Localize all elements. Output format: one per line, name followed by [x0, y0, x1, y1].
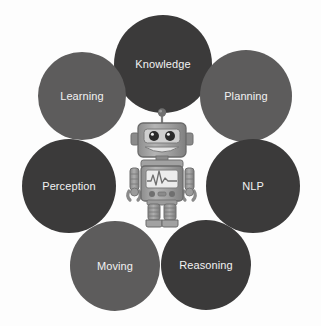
node-knowledge[interactable]: Knowledge [114, 15, 212, 113]
node-label-perception: Perception [42, 180, 96, 192]
node-moving[interactable]: Moving [70, 221, 160, 311]
node-label-moving: Moving [97, 260, 133, 272]
robot-eye-right [165, 131, 175, 141]
robot-leg-right [162, 204, 178, 227]
robot-arm-left [128, 168, 141, 200]
robot-arm-right [183, 168, 196, 200]
node-planning[interactable]: Planning [200, 50, 292, 142]
node-label-learning: Learning [60, 90, 104, 102]
robot-chest-screen [146, 170, 178, 188]
robot-leg-left [146, 204, 162, 227]
node-label-knowledge: Knowledge [135, 58, 190, 70]
node-learning[interactable]: Learning [38, 52, 126, 140]
robot-mouth [145, 147, 179, 152]
robot-eye-left [149, 131, 159, 141]
node-label-planning: Planning [224, 90, 268, 102]
node-label-nlp: NLP [242, 180, 264, 192]
node-perception[interactable]: Perception [22, 139, 116, 233]
node-reasoning[interactable]: Reasoning [161, 220, 251, 310]
node-nlp[interactable]: NLP [206, 139, 300, 233]
ai-domains-diagram: Knowledge Learning Planning Perception N… [0, 0, 321, 326]
robot-icon [122, 107, 202, 229]
node-label-reasoning: Reasoning [179, 259, 233, 271]
robot-waveform [147, 171, 177, 185]
